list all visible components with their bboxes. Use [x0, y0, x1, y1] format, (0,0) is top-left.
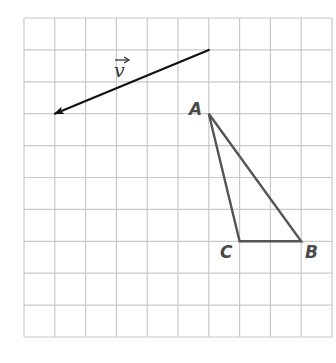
diagram-canvas: v A B C — [0, 0, 336, 363]
vertex-label-a: A — [187, 99, 202, 119]
grid-lines — [24, 18, 332, 337]
vertex-label-c: C — [220, 242, 233, 262]
vector-label-text: v — [114, 59, 125, 81]
grid-diagram: v A B C — [0, 0, 336, 363]
vector-label-v: v — [114, 57, 129, 81]
vertex-label-b: B — [305, 242, 318, 262]
